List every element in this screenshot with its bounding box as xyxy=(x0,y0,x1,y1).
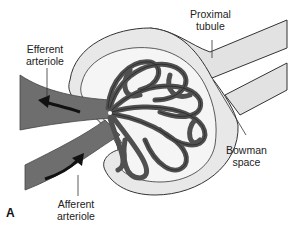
panel-letter: A xyxy=(6,206,15,220)
vascular-pole xyxy=(108,111,112,115)
afferent-label-line2: arteriole xyxy=(57,210,95,222)
efferent-label-line2: arteriole xyxy=(26,55,64,67)
glomerulus-diagram xyxy=(0,0,301,229)
afferent-arteriole xyxy=(25,120,120,190)
proximal-label-line1: Proximal xyxy=(190,8,231,20)
afferent-label-line1: Afferent xyxy=(57,198,95,210)
bowman-space-label: Bowman space xyxy=(226,144,267,168)
efferent-label-line1: Efferent xyxy=(26,43,64,55)
tubule-lower-wall xyxy=(225,63,287,115)
bowman-label-line2: space xyxy=(226,156,267,168)
bowman-label-line1: Bowman xyxy=(226,144,267,156)
efferent-arteriole-label: Efferent arteriole xyxy=(26,43,64,67)
afferent-arteriole-label: Afferent arteriole xyxy=(57,198,95,222)
proximal-tubule-label: Proximal tubule xyxy=(190,8,231,32)
proximal-label-line2: tubule xyxy=(190,20,231,32)
